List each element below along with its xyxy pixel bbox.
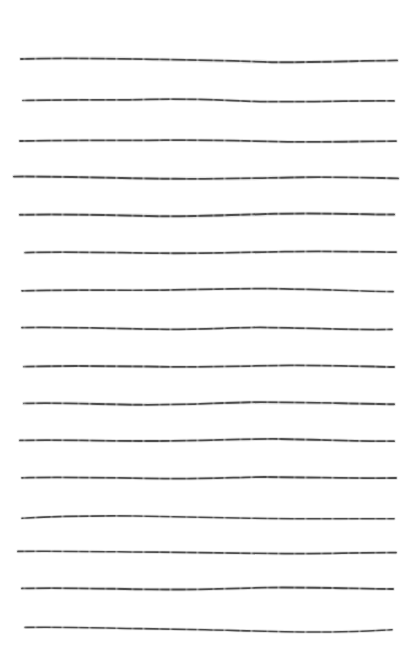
ruled-lines-canvas: [0, 0, 416, 662]
paper-sheet: [0, 0, 416, 662]
